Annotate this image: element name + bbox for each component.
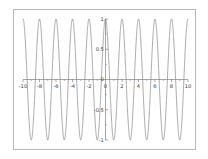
y-tick-label: -0.5 [94, 107, 104, 113]
x-tick-label: -2 [86, 83, 91, 89]
x-tick-label: 8 [170, 83, 173, 89]
x-tick-label: 0 [104, 83, 107, 89]
x-tick-label: 6 [153, 83, 156, 89]
x-tick-label: 4 [137, 83, 141, 89]
x-tick-label: 10 [185, 83, 192, 89]
plot-canvas: -10-8-6-4-20246810-1-0.500.51 [13, 9, 196, 150]
x-tick-label: -10 [19, 83, 27, 89]
x-tick-label: -6 [53, 83, 58, 89]
plot-figure: -10-8-6-4-20246810-1-0.500.51 [0, 0, 208, 159]
x-tick-label: -4 [70, 83, 76, 89]
y-tick-label: -1 [99, 137, 104, 143]
x-tick-label: 2 [120, 83, 123, 89]
x-tick-label: -8 [37, 83, 42, 89]
y-tick-label: 1 [101, 16, 104, 22]
